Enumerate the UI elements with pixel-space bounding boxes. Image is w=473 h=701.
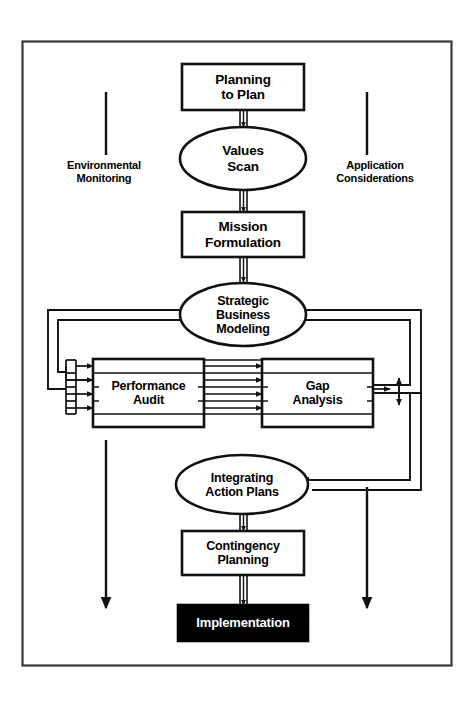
node-implementation-shape: [178, 605, 308, 641]
connector-planning-to-values: [240, 110, 247, 127]
flowchart-canvas: Planningto Plan ValuesScan MissionFormul…: [0, 0, 473, 701]
performance-audit-input-arrows: [66, 360, 93, 414]
side-label-application-considerations: ApplicationConsiderations: [305, 159, 445, 184]
node-integrating-action-plans-shape: [176, 455, 308, 514]
node-values-scan-shape: [180, 127, 306, 190]
node-contingency-planning-shape: [182, 531, 304, 575]
flowchart-graphics: [0, 0, 473, 701]
connector-contingency-to-implementation: [240, 575, 247, 605]
node-strategic-business-modeling-shape: [180, 283, 306, 346]
connector-values-to-mission: [240, 190, 247, 212]
node-mission-formulation-shape: [182, 212, 304, 257]
performance-to-gap-arrows: [204, 360, 262, 414]
node-planning-to-plan-shape: [182, 64, 304, 110]
connector-mission-to-strategic: [240, 257, 247, 283]
side-label-environmental-monitoring: EnvironmentalMonitoring: [41, 159, 167, 184]
